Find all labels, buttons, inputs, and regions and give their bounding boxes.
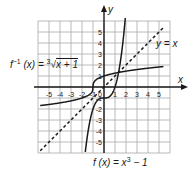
y-tick-label: -4 <box>96 128 102 135</box>
inverse-superscript: −1 <box>13 58 21 65</box>
y-tick-label: 5 <box>98 29 102 36</box>
identity-line-label: y = x <box>156 38 177 49</box>
x-tick-label: 3 <box>135 91 139 98</box>
y-axis-arrow-icon <box>101 5 107 12</box>
func-rest: − 1 <box>131 157 148 168</box>
x-tick-label: 2 <box>124 91 128 98</box>
inverse-function-label: f−1 (x) = 3√x + 1 <box>10 58 78 70</box>
y-tick-label: 4 <box>98 40 102 47</box>
radicand: x + 1 <box>56 58 78 70</box>
x-tick-label: -5 <box>46 91 52 98</box>
x-tick-label: 5 <box>157 91 161 98</box>
function-inverse-plot: -5-4-3-2-112345-5-4-3-2-1123450 <box>0 0 193 174</box>
x-tick-label: 4 <box>146 91 150 98</box>
x-tick-label: -4 <box>57 91 63 98</box>
inverse-rest: (x) = <box>21 59 47 70</box>
y-tick-label: -3 <box>96 117 102 124</box>
y-axis-label: y <box>108 4 113 15</box>
x-tick-label: -3 <box>68 91 74 98</box>
function-label: f (x) = x3 − 1 <box>93 156 148 168</box>
y-tick-label: 3 <box>98 51 102 58</box>
x-axis-label: x <box>178 74 183 85</box>
y-tick-label: -5 <box>96 139 102 146</box>
function-curve <box>85 18 125 152</box>
y-tick-label: -2 <box>96 106 102 113</box>
y-tick-label: 2 <box>98 62 102 69</box>
func-text: f (x) = x <box>93 157 127 168</box>
